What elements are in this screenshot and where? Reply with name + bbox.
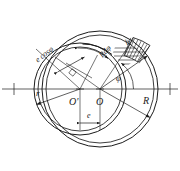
label-angle-phi: φ <box>116 74 121 83</box>
phi-radial-ray <box>100 56 148 89</box>
label-small-radius: r <box>36 89 40 98</box>
horizontal-centerline <box>2 83 178 95</box>
label-journal-center: O' <box>69 97 78 107</box>
figure-canvas: r R O' O e φ Rdφ e cosφ b <box>0 0 180 171</box>
diagram-svg <box>0 0 180 171</box>
label-bush-center: O <box>96 97 103 107</box>
label-large-radius: R <box>143 96 149 106</box>
right-angle-square <box>69 69 76 76</box>
label-eccentricity: e <box>87 112 91 120</box>
